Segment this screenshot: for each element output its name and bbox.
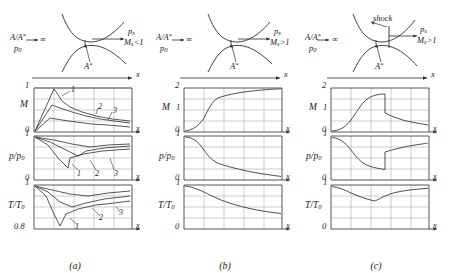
temperature-ytick-1: 1 [323,178,327,187]
nozzle-lower-wall [208,45,272,72]
temperature-axis-label: T/T0 [8,201,24,211]
schematic-x-label: x [431,70,435,79]
temperature-curve-label-1: 1 [75,222,79,231]
temperature-ytick-1: 1 [176,178,180,187]
pressure-axis-label: p/p0 [9,152,24,162]
pressure-axis-label: p/p0 [159,152,174,162]
exit-mach-label: Ms<1 [124,38,144,48]
inlet-infinity-label: ∞ [40,35,46,44]
temperature-ytick-08: 0.8 [14,222,25,231]
pressure-x-label: x [433,172,437,181]
pressure-curve-supersonic [332,138,385,170]
exit-pressure-label: ps [274,27,281,37]
exit-mach-label: Ms>1 [270,38,290,48]
temperature-axis-label: T/T0 [305,201,321,211]
mach-curve-subsonic [385,113,428,125]
inlet-stagnation-pressure-label: p0 [160,44,168,54]
mach-axis-label: M [162,103,170,113]
temperature-ytick-0: 0 [322,222,326,231]
mach-axis-label: M [20,100,28,110]
pressure-ytick-1: 1 [25,129,29,138]
pressure-axis-label: p/p0 [306,152,321,162]
temperature-curve-label-2: 2 [99,213,103,222]
temperature-curve-supersonic [332,187,375,202]
panel-b: A/A* ∞ p0 A* ps Ms>1 x 2 1 0 M x 1 p/p0 … [150,0,300,273]
nozzle-flow-figure: A/A* ∞ p0 A* ps Ms<1 x 1 M 0 x 1 2 3 1 p… [0,0,451,273]
panel-c-pressure-plot [331,136,437,182]
mach-x-label: x [286,124,290,133]
panel-c-mach-plot [331,88,437,134]
exit-pressure-label: ps [420,25,427,35]
panel-b-mach-plot [184,88,290,134]
panel-c-temperature-plot [331,185,437,231]
mach-x-label: x [136,124,140,133]
temperature-x-label: x [136,221,140,230]
shock-label: shock [373,14,392,23]
pressure-x-label: x [286,172,290,181]
mach-ytick-1: 1 [323,103,327,112]
schematic-x-axis-head [276,76,280,79]
throat-area-label: A* [375,62,383,71]
panel-a-mach-plot [34,88,140,134]
mach-curve-label-2: 2 [98,102,102,111]
nozzle-upper-wall [208,14,270,42]
mach-curve-supersonic [332,94,385,131]
temperature-x-label: x [286,221,290,230]
nozzle-lower-wall [62,45,126,72]
panel-c: A/A* ∞ p0 A* shock ps Ms>1 x 2 1 0 M x 1… [301,0,451,273]
temperature-ytick-1: 1 [25,178,29,187]
temperature-ytick-0: 0 [175,222,179,231]
pressure-curve-label-3: 3 [114,169,118,178]
mach-ytick-1: 1 [25,81,29,90]
pressure-curve-label-1: 1 [77,169,81,178]
panel-b-pressure-plot [184,136,290,182]
panel-b-caption: (b) [150,260,300,271]
mach-ytick-2: 2 [175,81,179,90]
panel-a-caption: (a) [0,260,150,271]
inlet-arrow-head [35,39,38,42]
pressure-x-label: x [136,172,140,181]
panel-a-pressure-plot [34,136,140,182]
temperature-curve-subsonic [375,188,428,201]
temperature-curve-label-3: 3 [119,208,123,217]
inlet-stagnation-pressure-label: p0 [309,44,317,54]
inlet-arrow-head [326,39,329,42]
nozzle-lower-wall [353,45,417,72]
mach-curve-label-1: 1 [71,85,75,94]
inlet-area-ratio-label: A/A* [156,33,172,42]
panel-c-caption: (c) [301,260,451,271]
panel-b-temperature-plot [184,185,290,231]
curve-1-leader [62,91,70,96]
nozzle-upper-wall [62,14,124,42]
exit-pressure-label: ps [128,27,135,37]
inlet-area-ratio-label: A/A* [10,33,26,42]
curve-3 [35,118,130,132]
mach-axis-label: M [309,103,317,113]
pressure-curve [185,137,281,177]
throat-area-label: A* [84,62,92,71]
mach-ytick-2: 2 [322,81,326,90]
inlet-area-ratio-label: A/A* [305,33,321,42]
panel-a: A/A* ∞ p0 A* ps Ms<1 x 1 M 0 x 1 2 3 1 p… [0,0,150,273]
inlet-infinity-label: ∞ [186,35,192,44]
mach-curve-label-3: 3 [113,106,117,115]
panel-a-temperature-plot [34,185,140,231]
schematic-x-label: x [136,70,140,79]
pressure-ytick-1: 1 [176,129,180,138]
throat-area-label: A* [230,62,238,71]
temperature-x-label: x [433,221,437,230]
temperature-axis-label: T/T0 [158,201,174,211]
schematic-x-axis-head [423,76,427,79]
schematic-x-axis-head [128,76,132,79]
pressure-ytick-1: 1 [323,129,327,138]
mach-ytick-1: 1 [176,103,180,112]
temperature-curve [185,186,281,214]
pressure-curve-label-2: 2 [95,169,99,178]
inlet-infinity-label: ∞ [332,35,338,44]
pressure-curve-subsonic [385,143,428,152]
mach-x-label: x [433,124,437,133]
inlet-stagnation-pressure-label: p0 [14,44,22,54]
curve-3 [35,186,130,196]
inlet-arrow-head [181,39,184,42]
schematic-x-label: x [284,70,288,79]
